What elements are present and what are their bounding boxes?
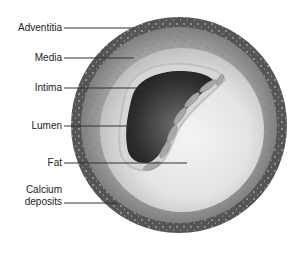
label-calcium-deposits: Calcium deposits	[25, 184, 62, 208]
label-lumen: Lumen	[31, 120, 62, 132]
label-adventitia: Adventitia	[18, 22, 62, 34]
label-intima: Intima	[35, 82, 62, 94]
label-calcium-line2: deposits	[25, 196, 62, 208]
label-calcium-line1: Calcium	[25, 184, 62, 196]
artery-diagram: Adventitia Media Intima Lumen Fat Calciu…	[0, 0, 304, 257]
label-media: Media	[35, 52, 62, 64]
label-fat: Fat	[48, 157, 62, 169]
